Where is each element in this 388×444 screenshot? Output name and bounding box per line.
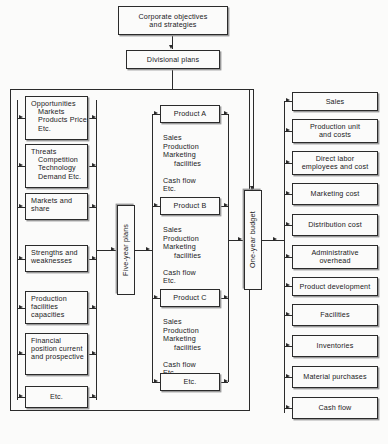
arrowhead-right-direct-labor	[286, 160, 290, 164]
right-item-administrative-overhead: Administrative overhead	[292, 245, 378, 269]
arrowhead-right-production-out	[92, 305, 96, 309]
one-year-budget-box: One-year budget	[244, 190, 262, 290]
left-item-strengths-weaknesses: Strengths and weaknesses	[25, 245, 88, 272]
left-item-threats: Threats Competition Technology Demand Et…	[25, 144, 88, 188]
connector-divisional-to-frame	[172, 69, 173, 90]
arrowhead-right-inventories	[286, 343, 290, 347]
product-a-detail-tail: Cash flow Etc.	[163, 176, 196, 193]
product-c-box: Product C	[160, 289, 220, 307]
arrowhead-right-marketing-cost	[286, 191, 290, 195]
five-year-plans-label: Five-year plans	[122, 224, 130, 276]
right-item-marketing-cost-label: Marketing cost	[311, 190, 360, 198]
right-item-material-purchases-label: Material purchases	[303, 373, 366, 381]
left-item-financial-position: Financial position current and prospecti…	[25, 333, 88, 375]
arrowhead-right-one-year-in	[238, 237, 242, 241]
arrowhead-right-opportunities-out	[92, 115, 96, 119]
arrowhead-right-strengths-out	[92, 256, 96, 260]
right-item-sales-label: Sales	[326, 98, 345, 106]
arrowhead-right-markets-in	[19, 204, 23, 208]
left-item-markets-and-share: Markets and share	[25, 193, 88, 220]
one-year-budget-label: One-year budget	[249, 212, 257, 269]
arrowhead-right-cash-flow	[286, 405, 290, 409]
left-item-production-facilities: Production facilities capacities	[25, 291, 88, 324]
corporate-objectives-label: Corporate objectives and strategies	[139, 13, 208, 29]
right-item-production-unit-costs-label: Production unit and costs	[310, 123, 360, 139]
arrowhead-right-product-etc-in	[154, 379, 158, 383]
left-item-etc-label: Etc.	[50, 393, 63, 401]
right-item-sales: Sales	[292, 92, 378, 111]
product-a-detail-primary: Sales Production Marketing	[163, 133, 199, 159]
arrowhead-right-five-year-out	[146, 247, 150, 251]
right-item-facilities-label: Facilities	[320, 311, 349, 319]
arrowhead-right-product-etc-out	[224, 379, 228, 383]
arrowhead-right-product-a-out	[224, 111, 228, 115]
arrowhead-right-one-year-out	[273, 237, 277, 241]
right-item-administrative-overhead-label: Administrative overhead	[311, 249, 358, 265]
left-item-financial-position-text: Financial position current and prospecti…	[31, 337, 87, 362]
right-item-direct-labor-label: Direct labor employees and cost	[302, 155, 369, 171]
arrowhead-right-financial-in	[19, 351, 23, 355]
right-item-distribution-cost: Distribution cost	[292, 214, 378, 236]
right-item-distribution-cost-label: Distribution cost	[308, 221, 362, 229]
arrowhead-right-distribution-cost	[286, 222, 290, 226]
product-c-detail-primary: Sales Production Marketing	[163, 317, 199, 343]
arrowhead-right-opportunities-in	[19, 115, 23, 119]
arrowhead-right-product-b-out	[224, 203, 228, 207]
arrowhead-right-product-c-in	[154, 295, 158, 299]
product-a-details: Sales Production Marketing facilities Ca…	[163, 126, 225, 193]
right-item-product-development-label: Product development	[300, 283, 371, 291]
arrowhead-right-product-development	[286, 283, 290, 287]
left-item-threats-text: Threats Competition Technology Demand Et…	[31, 148, 87, 181]
arrowhead-right-left-etc-out	[92, 394, 96, 398]
product-c-detail-facilities: facilities	[163, 344, 225, 352]
product-etc-box: Etc.	[160, 373, 220, 391]
product-a-detail-facilities: facilities	[163, 160, 225, 168]
left-item-markets-and-share-text: Markets and share	[31, 197, 87, 214]
left-input-bus	[17, 100, 18, 400]
product-b-details: Sales Production Marketing facilities Ca…	[163, 218, 225, 285]
right-item-direct-labor: Direct labor employees and cost	[292, 151, 378, 175]
arrowhead-right-five-year-in	[111, 247, 115, 251]
arrowhead-right-product-b-in	[154, 203, 158, 207]
arrowhead-right-financial-out	[92, 351, 96, 355]
arrowhead-right-facilities	[286, 312, 290, 316]
product-b-detail-tail: Cash flow Etc.	[163, 268, 196, 285]
divisional-plans-box: Divisional plans	[126, 50, 220, 69]
arrowhead-right-strengths-in	[19, 256, 23, 260]
products-input-bus	[152, 114, 153, 382]
left-item-etc: Etc.	[25, 386, 88, 408]
right-item-cash-flow-label: Cash flow	[319, 404, 352, 412]
right-item-marketing-cost: Marketing cost	[292, 183, 378, 205]
left-item-production-facilities-text: Production facilities capacities	[31, 295, 87, 320]
left-item-opportunities: Opportunities Markets Products Price Etc…	[25, 96, 88, 140]
connector-frame-top-to-budget	[172, 89, 254, 90]
right-item-inventories-label: Inventories	[317, 342, 354, 350]
arrowhead-right-threats-in	[19, 163, 23, 167]
left-item-opportunities-text: Opportunities Markets Products Price Etc…	[31, 100, 87, 133]
product-etc-label: Etc.	[184, 378, 197, 386]
right-item-cash-flow: Cash flow	[292, 397, 378, 419]
left-item-strengths-weaknesses-text: Strengths and weaknesses	[31, 249, 87, 266]
product-a-label: Product A	[174, 110, 207, 118]
corporate-objectives-box: Corporate objectives and strategies	[118, 6, 228, 35]
right-item-inventories: Inventories	[292, 335, 378, 357]
divisional-plans-label: Divisional plans	[147, 56, 199, 64]
right-item-facilities: Facilities	[292, 304, 378, 326]
product-b-detail-facilities: facilities	[163, 252, 225, 260]
right-item-material-purchases: Material purchases	[292, 366, 378, 388]
arrowhead-right-material-purchases	[286, 374, 290, 378]
arrowhead-right-left-etc-in	[19, 394, 23, 398]
arrowhead-right-product-a-in	[154, 111, 158, 115]
five-year-plans-box: Five-year plans	[117, 205, 135, 295]
product-b-label: Product B	[174, 202, 207, 210]
flowchart-canvas: Corporate objectives and strategies Divi…	[0, 0, 388, 444]
right-item-production-unit-costs: Production unit and costs	[292, 119, 378, 143]
arrowhead-right-threats-out	[92, 163, 96, 167]
product-c-label: Product C	[173, 294, 206, 302]
arrowhead-down-one-year-budget	[250, 186, 254, 190]
arrowhead-down-divisional	[169, 45, 173, 49]
arrowhead-right-production-unit	[286, 128, 290, 132]
arrowhead-right-product-c-out	[224, 295, 228, 299]
arrowhead-right-administrative-overhead	[286, 254, 290, 258]
arrowhead-right-sales	[286, 98, 290, 102]
